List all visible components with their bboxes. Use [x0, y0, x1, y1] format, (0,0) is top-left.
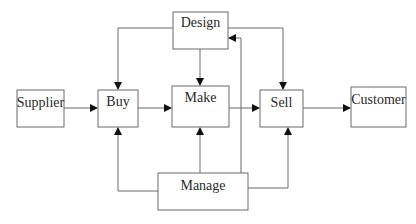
node-sell: Sell — [260, 90, 303, 127]
node-label: Buy — [106, 94, 129, 109]
edge-manage-design — [229, 38, 241, 173]
node-design: Design — [173, 12, 228, 49]
node-customer: Customer — [351, 87, 406, 127]
node-manage: Manage — [158, 173, 248, 210]
node-label: Make — [185, 90, 217, 105]
edge-design-sell — [228, 28, 283, 89]
edge-manage-buy — [118, 128, 158, 191]
edge-design-buy — [118, 28, 173, 89]
node-supplier: Supplier — [17, 90, 65, 127]
node-make: Make — [172, 86, 229, 127]
node-label: Manage — [180, 178, 225, 193]
node-label: Customer — [351, 92, 406, 107]
edge-manage-sell — [248, 128, 288, 188]
node-label: Sell — [271, 95, 293, 110]
supply-chain-diagram: Design Supplier Buy Make Sell Customer M… — [0, 0, 416, 224]
node-buy: Buy — [98, 90, 138, 127]
node-label: Design — [181, 15, 221, 30]
node-label: Supplier — [17, 95, 65, 110]
